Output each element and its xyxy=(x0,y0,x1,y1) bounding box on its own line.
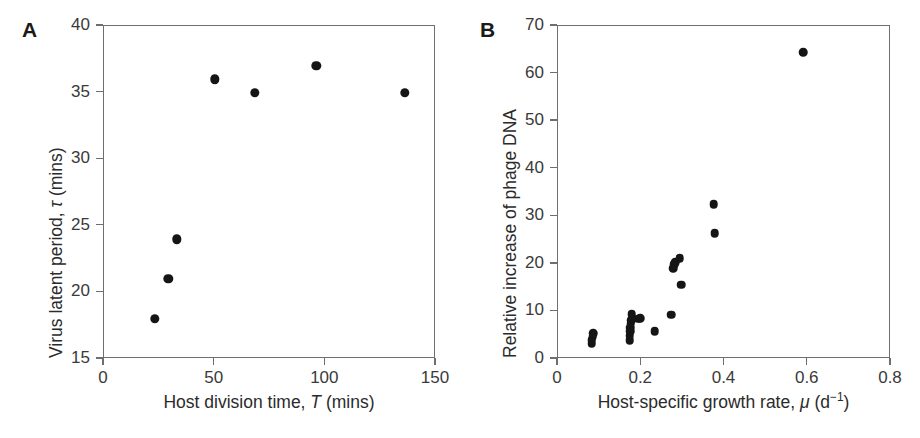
x-tick-label: 0.2 xyxy=(628,368,652,388)
panel-b-letter: B xyxy=(480,18,495,42)
x-tick-label: 0.4 xyxy=(712,368,736,388)
x-tick-mark xyxy=(723,358,724,365)
y-tick-label: 35 xyxy=(45,82,90,102)
panel-a-x-axis-title: Host division time, T (mins) xyxy=(103,392,435,413)
y-tick-mark xyxy=(96,24,103,25)
panel-b-plot-area xyxy=(558,26,889,357)
y-tick-mark xyxy=(550,262,557,263)
x-tick-mark xyxy=(556,358,557,365)
y-tick-mark xyxy=(550,215,557,216)
y-tick-mark xyxy=(96,224,103,225)
data-point xyxy=(667,310,676,319)
y-tick-label: 40 xyxy=(45,15,90,35)
panel-a-plot-area xyxy=(104,26,434,357)
x-tick-label: 50 xyxy=(204,368,223,388)
y-tick-mark xyxy=(550,167,557,168)
data-point xyxy=(400,88,409,97)
data-point xyxy=(589,329,598,338)
y-tick-label: 60 xyxy=(499,63,544,83)
data-point xyxy=(636,314,645,323)
data-point xyxy=(675,254,684,263)
x-tick-mark xyxy=(324,358,325,365)
data-point xyxy=(150,314,159,323)
y-tick-mark xyxy=(96,91,103,92)
x-tick-label: 0.6 xyxy=(795,368,819,388)
figure-container: A 152025303540050100150 Host division ti… xyxy=(0,0,920,438)
y-tick-mark xyxy=(550,119,557,120)
x-tick-mark xyxy=(213,358,214,365)
x-tick-label: 0 xyxy=(98,368,107,388)
panel-b-plot-frame xyxy=(557,25,890,358)
data-point xyxy=(210,75,219,84)
data-point xyxy=(799,48,808,57)
panel-a-letter: A xyxy=(22,18,37,42)
data-point xyxy=(650,327,659,336)
data-point xyxy=(163,274,172,283)
y-tick-mark xyxy=(550,24,557,25)
data-point xyxy=(172,234,181,243)
data-point xyxy=(677,280,686,289)
x-tick-mark xyxy=(889,358,890,365)
x-tick-mark xyxy=(102,358,103,365)
x-tick-mark xyxy=(434,358,435,365)
panel-a-y-axis-title: Virus latent period, τ (mins) xyxy=(46,148,67,358)
y-tick-mark xyxy=(550,72,557,73)
x-tick-mark xyxy=(806,358,807,365)
y-tick-mark xyxy=(96,291,103,292)
data-point xyxy=(709,200,718,209)
panel-b: B 01020304050607000.20.40.60.8 Host-spec… xyxy=(460,0,920,438)
x-tick-label: 0.8 xyxy=(878,368,902,388)
data-point xyxy=(250,88,259,97)
panel-a-plot-frame xyxy=(103,25,435,358)
y-tick-mark xyxy=(96,158,103,159)
panel-b-y-axis-title: Relative increase of phage DNA xyxy=(500,109,521,358)
y-tick-label: 70 xyxy=(499,15,544,35)
panel-b-x-axis-title: Host-specific growth rate, μ (d−1) xyxy=(557,392,890,413)
x-tick-label: 150 xyxy=(421,368,449,388)
x-tick-mark xyxy=(640,358,641,365)
data-point xyxy=(710,229,719,238)
panel-a: A 152025303540050100150 Host division ti… xyxy=(0,0,460,438)
data-point xyxy=(312,61,321,70)
x-tick-label: 100 xyxy=(310,368,338,388)
y-tick-mark xyxy=(550,310,557,311)
x-tick-label: 0 xyxy=(552,368,561,388)
